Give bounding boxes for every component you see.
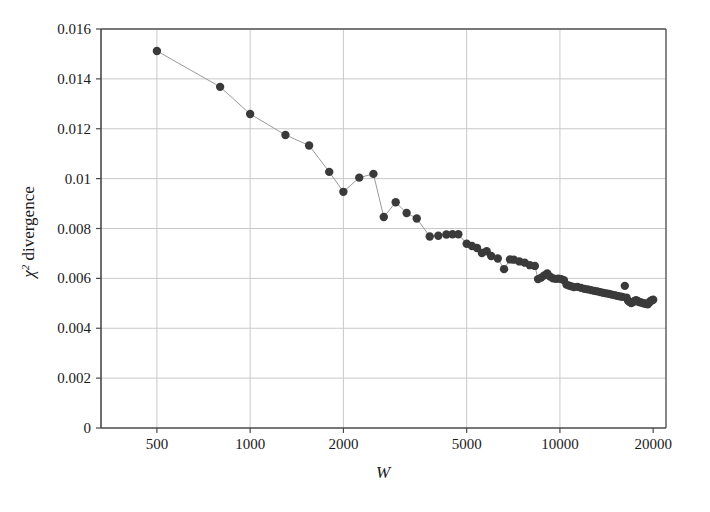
- data-point: [402, 209, 410, 217]
- data-point: [339, 188, 347, 196]
- data-point: [369, 170, 377, 178]
- x-tick-label: 2000: [328, 436, 358, 452]
- data-point: [413, 214, 421, 222]
- data-point: [649, 296, 657, 304]
- data-point: [325, 168, 333, 176]
- x-axis-title: W: [376, 463, 392, 482]
- data-point: [621, 282, 629, 290]
- y-tick-label: 0.014: [57, 71, 91, 87]
- data-point: [434, 232, 442, 240]
- y-axis-title: χ2 divergence: [19, 186, 38, 280]
- x-tick-label: 1000: [235, 436, 265, 452]
- data-point: [426, 232, 434, 240]
- data-point: [153, 47, 161, 55]
- chart-figure: 5001000200050001000020000 00.0020.0040.0…: [0, 0, 710, 512]
- y-tick-label: 0.012: [57, 121, 91, 137]
- data-point: [380, 213, 388, 221]
- series-data-points: [153, 47, 658, 309]
- data-point: [500, 265, 508, 273]
- data-point: [494, 254, 502, 262]
- y-axis-tick-labels: 00.0020.0040.0060.0080.010.0120.0140.016: [57, 21, 91, 436]
- data-point: [454, 230, 462, 238]
- gridlines: [101, 29, 666, 428]
- data-point: [355, 173, 363, 181]
- y-tick-label: 0.006: [57, 270, 91, 286]
- data-point: [281, 131, 289, 139]
- y-tick-label: 0.016: [57, 21, 91, 37]
- x-tick-label: 20000: [634, 436, 672, 452]
- y-tick-label: 0: [84, 420, 92, 436]
- y-axis-title-text: divergence: [19, 186, 38, 265]
- x-tick-label: 500: [146, 436, 169, 452]
- svg-text:χ2 divergence: χ2 divergence: [19, 186, 38, 280]
- x-axis-tick-labels: 5001000200050001000020000: [146, 436, 672, 452]
- chi2-divergence-scatter-plot: 5001000200050001000020000 00.0020.0040.0…: [0, 0, 710, 512]
- x-tick-label: 10000: [541, 436, 579, 452]
- y-tick-label: 0.002: [57, 370, 91, 386]
- data-point: [391, 198, 399, 206]
- data-point: [246, 110, 254, 118]
- y-tick-label: 0.008: [57, 221, 91, 237]
- y-tick-label: 0.004: [57, 320, 91, 336]
- data-point: [216, 83, 224, 91]
- axis-ticks: [96, 29, 653, 433]
- data-point: [531, 262, 539, 270]
- x-tick-label: 5000: [452, 436, 482, 452]
- data-point: [305, 141, 313, 149]
- y-tick-label: 0.01: [65, 171, 91, 187]
